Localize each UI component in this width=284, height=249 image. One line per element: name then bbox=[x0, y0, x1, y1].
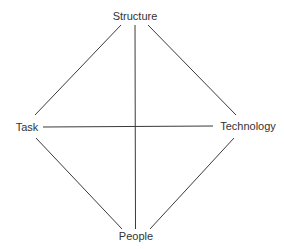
edge-structure-technology bbox=[148, 25, 236, 115]
edge-technology-people bbox=[150, 138, 234, 229]
edge-task-people bbox=[36, 138, 122, 229]
node-people-label: People bbox=[119, 231, 153, 242]
edge-structure-task bbox=[35, 25, 121, 115]
leavitt-diamond-diagram: Structure Task Technology People bbox=[0, 0, 284, 249]
edge-task-technology bbox=[43, 126, 213, 127]
node-technology-label: Technology bbox=[220, 121, 276, 132]
node-task-label: Task bbox=[16, 122, 39, 133]
edge-structure-people bbox=[135, 25, 136, 229]
node-structure-label: Structure bbox=[113, 11, 158, 22]
